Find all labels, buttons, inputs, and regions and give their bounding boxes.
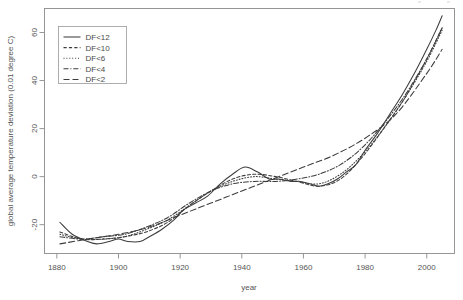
legend-label-dflt4: DF<4 — [86, 65, 106, 74]
x-tick-label: 1960 — [295, 263, 313, 272]
x-tick-label: 1900 — [110, 263, 128, 272]
y-tick-label: -20 — [30, 218, 39, 230]
x-axis-ticks — [57, 254, 427, 259]
x-tick-label: 1980 — [356, 263, 374, 272]
y-axis-tick-labels: -200204060 — [30, 28, 39, 231]
chart-container: 1880190019201940196019802000 -200204060 … — [0, 0, 463, 300]
legend-label-dflt6: DF<6 — [86, 54, 106, 63]
legend-label-dflt10: DF<10 — [86, 44, 111, 53]
x-tick-label: 1920 — [171, 263, 189, 272]
y-axis-title: global average temperature deviation (0.… — [6, 35, 15, 226]
y-axis-ticks — [40, 33, 45, 225]
scan-artifacts — [418, 1, 450, 3]
x-axis-tick-labels: 1880190019201940196019802000 — [48, 263, 436, 272]
y-tick-label: 60 — [30, 28, 39, 37]
y-tick-label: 0 — [30, 174, 39, 179]
x-tick-label: 1940 — [233, 263, 251, 272]
legend: DF<12DF<10DF<6DF<4DF<2 — [59, 27, 127, 85]
legend-label-dflt2: DF<2 — [86, 75, 106, 84]
y-tick-label: 40 — [30, 76, 39, 85]
x-axis-title: year — [241, 283, 257, 292]
x-tick-label: 2000 — [418, 263, 436, 272]
x-tick-label: 1880 — [48, 263, 66, 272]
legend-label-dflt12: DF<12 — [86, 33, 111, 42]
line-chart: 1880190019201940196019802000 -200204060 … — [0, 0, 463, 300]
y-tick-label: 20 — [30, 124, 39, 133]
